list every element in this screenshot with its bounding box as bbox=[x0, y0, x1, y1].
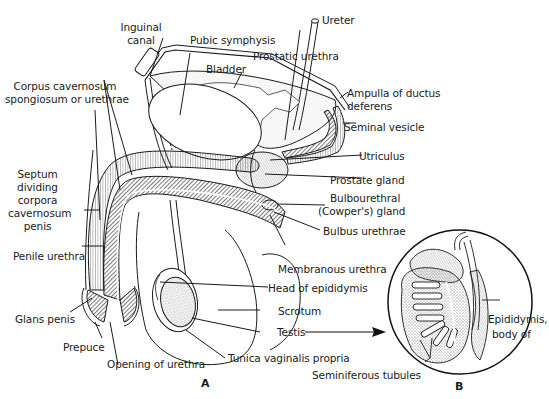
panel-a-label: A bbox=[201, 377, 209, 390]
label-septum-line3: corpora bbox=[10, 194, 65, 207]
label-membranous-urethra: Membranous urethra bbox=[278, 263, 387, 276]
label-ampulla-line1: Ampulla of ductus bbox=[347, 87, 440, 100]
label-utriculus: Utriculus bbox=[359, 150, 405, 163]
label-corpus-spongiosum-line1: Corpus cavernosum bbox=[5, 80, 125, 93]
label-bulbourethral-line1: Bulbourethral bbox=[330, 192, 400, 205]
label-testis: Testis bbox=[277, 326, 305, 339]
panel-b-label: B bbox=[455, 380, 463, 393]
label-bladder: Bladder bbox=[206, 63, 246, 76]
label-ureter: Ureter bbox=[322, 14, 355, 27]
label-inguinal-canal-line1: Inguinal bbox=[118, 21, 164, 34]
label-bulbus-urethrae: Bulbus urethrae bbox=[323, 225, 406, 238]
label-septum-line5: penis bbox=[10, 220, 65, 233]
anatomy-figure: Ureter Inguinal canal Pubic symphysis Pr… bbox=[0, 0, 549, 399]
label-glans-penis: Glans penis bbox=[15, 313, 75, 326]
label-inguinal-canal-line2: canal bbox=[118, 34, 164, 47]
label-opening-urethra: Opening of urethra bbox=[107, 358, 205, 371]
label-septum-line2: dividing bbox=[10, 181, 65, 194]
label-ampulla-line2: deferens bbox=[347, 100, 392, 113]
label-seminal-vesicle: Seminal vesicle bbox=[344, 121, 424, 134]
label-tunica-vaginalis: Tunica vaginalis propria bbox=[228, 352, 350, 365]
label-prostatic-urethra: Prostatic urethra bbox=[253, 50, 339, 63]
label-pubic-symphysis: Pubic symphysis bbox=[190, 34, 275, 47]
label-prostate-gland: Prostate gland bbox=[330, 174, 405, 187]
label-bulbourethral-line2: (Cowper's) gland bbox=[318, 205, 405, 218]
label-prepuce: Prepuce bbox=[63, 341, 105, 354]
label-septum-line4: cavernosum bbox=[8, 207, 67, 220]
label-seminiferous-tubules: Seminiferous tubules bbox=[312, 369, 421, 382]
label-head-epididymis: Head of epididymis bbox=[268, 282, 368, 295]
label-corpus-spongiosum-line2: spongiosum or urethrae bbox=[5, 93, 125, 106]
label-epididymis-body-line1: Epididymis, bbox=[488, 313, 548, 326]
label-scrotum: Scrotum bbox=[278, 305, 321, 318]
label-epididymis-body-line2: body of bbox=[492, 328, 531, 341]
label-penile-urethra: Penile urethra bbox=[13, 250, 85, 263]
label-septum-line1: Septum bbox=[10, 168, 65, 181]
